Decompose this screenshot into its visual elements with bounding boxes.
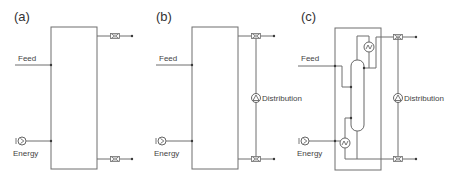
process-diagram: (a) Feed Energy (b) Feed Energy [0,0,456,179]
panel-c: (c) Feed Energy Distribution [297,9,444,170]
panel-label-c: (c) [301,9,316,24]
distribution-pump-icon [394,94,403,103]
energy-box-dot-c [334,140,336,142]
feed-label-a: Feed [18,54,36,63]
reboiler-return-dot-c [350,117,352,119]
energy-inlet-dot-b [191,140,193,142]
valve-icon [111,157,120,162]
energy-source-icon [156,137,166,145]
feed-label-b: Feed [159,54,177,63]
energy-inlet-dot-a [50,140,52,142]
distribution-pump-icon [252,94,261,103]
reboiler-icon [340,138,350,148]
process-unit-box-b [192,27,238,169]
distribution-label-b: Distribution [262,94,302,103]
bottom-outlet-dot-c [415,158,417,160]
energy-label-c: Energy [297,149,322,158]
energy-label-a: Energy [13,149,38,158]
valve-icon [252,34,261,39]
reflux-dot-c [363,67,365,69]
distillation-column-icon [351,60,364,131]
distribution-label-c: Distribution [404,94,444,103]
valve-icon [111,34,120,39]
bottom-outlet-dot-b [273,158,275,160]
panel-a: (a) Feed Energy [13,9,133,169]
panel-label-b: (b) [156,9,172,24]
valve-icon [252,157,261,162]
process-unit-box-a [51,27,97,169]
valve-icon [394,157,403,162]
energy-label-b: Energy [154,149,179,158]
condenser-icon [364,42,374,52]
top-outlet-dot-a [131,35,133,37]
feed-inlet-dot-b [191,64,193,66]
panel-label-a: (a) [14,9,30,24]
feed-column-dot-c [350,86,352,88]
feed-box-dot-c [334,65,336,67]
bottom-outlet-dot-a [131,158,133,160]
feed-label-c: Feed [301,54,319,63]
energy-source-icon [16,137,26,145]
top-outlet-dot-c [415,36,417,38]
panel-b: (b) Feed Energy Distribution [154,9,302,169]
energy-source-icon [299,137,309,145]
feed-inlet-dot-a [50,64,52,66]
top-outlet-dot-b [273,35,275,37]
